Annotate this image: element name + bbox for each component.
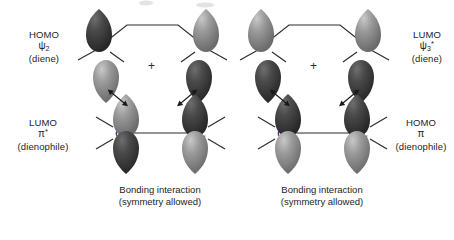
label-line-orbital: π	[380, 128, 454, 141]
label-dienophile-right: HOMO π (dienophile)	[380, 117, 454, 152]
label-line-level: HOMO	[13, 29, 75, 40]
label-line-orbital: ψ2	[13, 40, 75, 53]
label-line-level: LUMO	[2, 117, 84, 128]
label-line-orbital: π*	[2, 128, 84, 141]
label-line-species: (diene)	[13, 53, 75, 64]
label-line-species: (dienophile)	[2, 141, 84, 152]
label-diene-right: LUMO ψ3* (diene)	[396, 29, 454, 64]
label-line-level: LUMO	[396, 29, 454, 40]
plus-sign-right: +	[310, 60, 317, 72]
caption-left: Bonding interaction (symmetry allowed)	[90, 184, 230, 208]
caption-line-1: Bonding interaction	[252, 184, 392, 196]
label-line-species: (diene)	[396, 53, 454, 64]
label-line-level: HOMO	[380, 117, 454, 128]
label-dienophile-left: LUMO π* (dienophile)	[2, 117, 84, 152]
caption-line-1: Bonding interaction	[90, 184, 230, 196]
caption-right: Bonding interaction (symmetry allowed)	[252, 184, 392, 208]
caption-line-2: (symmetry allowed)	[90, 196, 230, 208]
label-line-species: (dienophile)	[380, 141, 454, 152]
label-line-orbital: ψ3*	[396, 40, 454, 53]
caption-line-2: (symmetry allowed)	[252, 196, 392, 208]
plus-sign-left: +	[148, 60, 155, 72]
label-diene-left: HOMO ψ2 (diene)	[13, 29, 75, 64]
